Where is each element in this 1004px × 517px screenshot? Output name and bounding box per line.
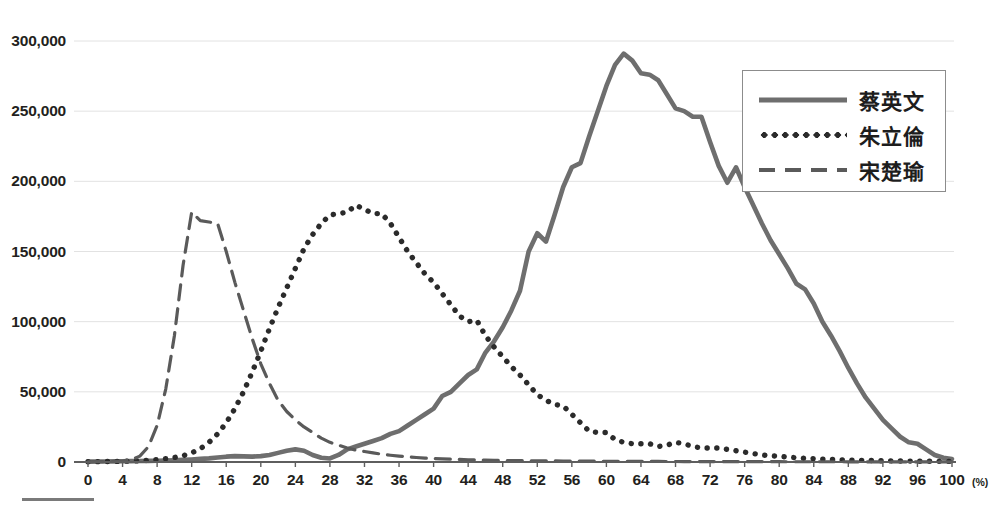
legend-label-soong: 宋楚瑜 (859, 155, 925, 185)
x-axis-tick-label: 100 (939, 471, 964, 489)
series-line-3 (88, 212, 952, 462)
x-axis-tick-label: 4 (118, 471, 126, 489)
x-axis-tick-label: 84 (805, 471, 822, 489)
chart-container: 300,000250,000200,000150,000100,00050,00… (0, 0, 1004, 517)
legend-key-dotted-line-icon (755, 125, 851, 145)
caption-divider-rule (22, 498, 94, 501)
y-axis-tick-label: 50,000 (0, 383, 66, 401)
y-axis-tick-label: 200,000 (0, 172, 66, 190)
x-axis-tick-label: 16 (218, 471, 235, 489)
chart-legend: 蔡英文 朱立倫 宋楚瑜 (742, 70, 946, 192)
series-line-2 (88, 205, 952, 462)
x-axis-tick-label: 52 (529, 471, 546, 489)
legend-item-chu: 朱立倫 (743, 118, 945, 152)
x-axis-tick-label: 28 (321, 471, 338, 489)
x-axis-tick-label: 0 (84, 471, 92, 489)
x-axis-tick-label: 24 (287, 471, 304, 489)
x-axis-tick-label: 68 (667, 471, 684, 489)
y-axis-tick-label: 100,000 (0, 313, 66, 331)
y-axis-tick-label: 300,000 (0, 32, 66, 50)
x-axis-tick-label: 60 (598, 471, 615, 489)
x-axis-tick-label: 48 (494, 471, 511, 489)
legend-item-soong: 宋楚瑜 (743, 153, 945, 187)
x-axis-tick-label: 40 (425, 471, 442, 489)
x-axis-tick-label: 64 (633, 471, 650, 489)
legend-label-tsai: 蔡英文 (859, 85, 925, 115)
x-axis-tick-label: 56 (563, 471, 580, 489)
x-axis-tick-label: 92 (874, 471, 891, 489)
legend-key-dashed-line-icon (755, 160, 851, 180)
x-axis-tick-label: 32 (356, 471, 373, 489)
x-axis-tick-label: 20 (252, 471, 269, 489)
y-axis-tick-label: 150,000 (0, 243, 66, 261)
x-axis-tick-label: 8 (153, 471, 161, 489)
legend-label-chu: 朱立倫 (859, 120, 925, 150)
x-axis-tick-label: 76 (736, 471, 753, 489)
x-axis-tick-label: 72 (702, 471, 719, 489)
legend-key-solid-line-icon (755, 90, 851, 110)
x-axis-tick-label: 96 (909, 471, 926, 489)
x-axis-tick-label: 44 (460, 471, 477, 489)
x-axis-unit-label: (%) (972, 476, 988, 488)
x-axis-tick-label: 12 (183, 471, 200, 489)
x-axis-tick-label: 80 (771, 471, 788, 489)
x-axis-tick-label: 36 (391, 471, 408, 489)
x-axis-tick-label: 88 (840, 471, 857, 489)
y-axis-tick-label: 0 (0, 453, 66, 471)
y-axis-tick-label: 250,000 (0, 102, 66, 120)
legend-item-tsai: 蔡英文 (743, 83, 945, 117)
